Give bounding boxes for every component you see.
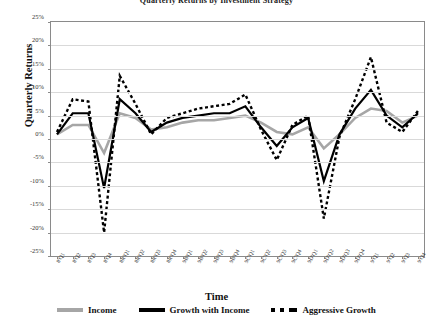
y-tick-mark: [48, 69, 51, 70]
y-tick-mark: [48, 92, 51, 93]
gridline: [51, 139, 424, 140]
y-tick-label: 5%: [4, 107, 44, 114]
quarterly-returns-chart: Quarterly Returns by Investment Strategy…: [0, 0, 433, 324]
y-tick-label: 0%: [4, 130, 44, 137]
y-tick-label: -5%: [4, 153, 44, 160]
y-tick-mark: [48, 256, 51, 257]
y-tick-mark: [48, 139, 51, 140]
gridline: [51, 92, 424, 93]
y-tick-mark: [48, 162, 51, 163]
legend-label-aggressive-growth: Aggressive Growth: [302, 305, 375, 315]
y-tick-mark: [48, 209, 51, 210]
plot-area: [50, 21, 425, 257]
y-tick-label: -20%: [4, 224, 44, 231]
gridline: [51, 209, 424, 210]
gridline: [51, 233, 424, 234]
gridline: [51, 116, 424, 117]
legend-label-growth-with-income: Growth with Income: [170, 305, 250, 315]
x-axis-title: Time: [0, 291, 433, 302]
y-tick-label: 10%: [4, 83, 44, 90]
y-tick-mark: [48, 116, 51, 117]
legend-item-growth-with-income[interactable]: Growth with Income: [139, 305, 250, 315]
legend-swatch-aggressive-icon: [271, 308, 297, 312]
legend-item-aggressive-growth[interactable]: Aggressive Growth: [271, 305, 375, 315]
y-tick-label: 20%: [4, 36, 44, 43]
gridline: [51, 45, 424, 46]
gridline: [51, 69, 424, 70]
y-tick-label: 15%: [4, 60, 44, 67]
legend-swatch-growth-icon: [139, 308, 165, 312]
gridline: [51, 162, 424, 163]
y-tick-label: -25%: [4, 247, 44, 254]
legend-swatch-income-icon: [57, 308, 83, 312]
chart-legend: Income Growth with Income Aggressive Gro…: [0, 305, 433, 315]
y-tick-mark: [48, 45, 51, 46]
y-tick-mark: [48, 186, 51, 187]
chart-title: Quarterly Returns by Investment Strategy: [0, 0, 433, 5]
y-tick-mark: [48, 22, 51, 23]
legend-label-income: Income: [88, 305, 117, 315]
y-tick-mark: [48, 233, 51, 234]
y-tick-label: 25%: [4, 13, 44, 20]
gridline: [51, 186, 424, 187]
y-tick-label: -10%: [4, 177, 44, 184]
y-tick-label: -15%: [4, 200, 44, 207]
legend-item-income[interactable]: Income: [57, 305, 117, 315]
